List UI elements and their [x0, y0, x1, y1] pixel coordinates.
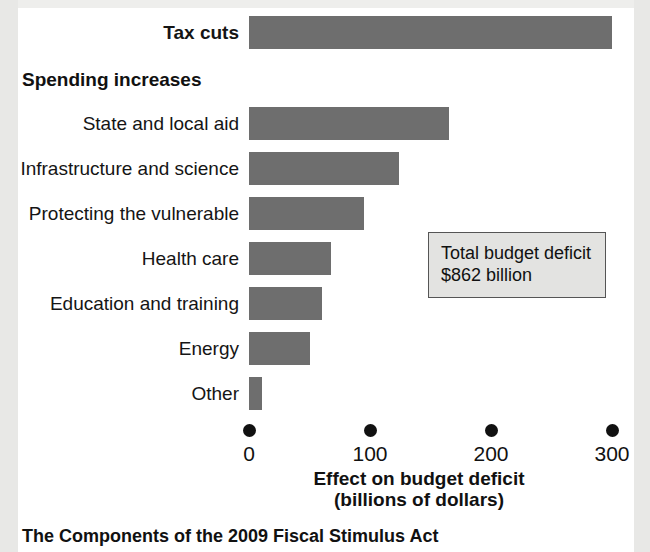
category-label-protecting-the-vulnerable: Protecting the vulnerable	[19, 203, 239, 225]
x-axis-tick-label-100: 100	[335, 442, 405, 466]
category-label-infrastructure-and-science: Infrastructure and science	[19, 158, 239, 180]
x-axis-tick-label-200: 200	[456, 442, 526, 466]
bar-other	[249, 377, 262, 410]
category-label-health-care: Health care	[19, 248, 239, 270]
bar-energy	[249, 332, 310, 365]
x-axis-tick-dot-300	[606, 424, 619, 437]
figure-container: Tax cutsState and local aidInfrastructur…	[0, 0, 650, 552]
bar-health-care	[249, 242, 331, 275]
category-label-state-and-local-aid: State and local aid	[19, 113, 239, 135]
figure-caption: The Components of the 2009 Fiscal Stimul…	[22, 525, 438, 547]
bar-state-and-local-aid	[249, 107, 449, 140]
category-label-other: Other	[19, 383, 239, 405]
total-deficit-note-box: Total budget deficit $862 billion	[428, 232, 606, 298]
x-axis-title-line-2: (billions of dollars)	[249, 489, 589, 510]
x-axis-tick-label-300: 300	[577, 442, 647, 466]
note-line-1: Total budget deficit	[441, 242, 595, 264]
x-axis-tick-dot-100	[364, 424, 377, 437]
x-axis-tick-dot-200	[485, 424, 498, 437]
x-axis-tick-dot-0	[243, 424, 256, 437]
x-axis-tick-label-0: 0	[214, 442, 284, 466]
category-label-education-and-training: Education and training	[19, 293, 239, 315]
category-label-tax-cuts: Tax cuts	[19, 22, 239, 44]
category-label-energy: Energy	[19, 338, 239, 360]
group-heading-spending-increases: Spending increases	[22, 69, 202, 91]
x-axis-title-line-1: Effect on budget deficit	[249, 468, 589, 489]
bar-protecting-the-vulnerable	[249, 197, 364, 230]
bar-infrastructure-and-science	[249, 152, 399, 185]
bar-tax-cuts	[249, 16, 612, 49]
bar-education-and-training	[249, 287, 322, 320]
note-line-2: $862 billion	[441, 264, 595, 286]
